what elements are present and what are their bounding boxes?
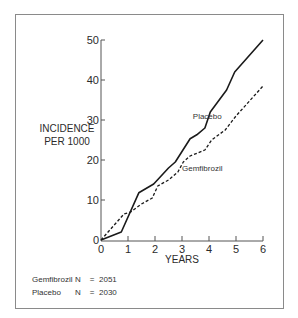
y-tick-label: 40 (87, 74, 99, 86)
x-tick-label: 5 (233, 243, 239, 255)
x-axis-title: YEARS (165, 254, 199, 265)
label-gemfibrozil: Gemfibrozil (182, 164, 223, 173)
x-tick-label: 6 (260, 243, 266, 255)
footnote-placebo: PlaceboN=2030 (32, 288, 117, 297)
y-tick-label: 0 (93, 234, 99, 246)
footnote-equals: = (85, 275, 99, 284)
series-placebo-line (101, 40, 263, 240)
footnote-n-label: N (75, 275, 85, 284)
y-tick-label: 10 (87, 194, 99, 206)
footnote-group: Placebo (32, 288, 75, 297)
label-placebo: Placebo (193, 112, 222, 121)
y-tick-label: 50 (87, 34, 99, 46)
incidence-line-chart: 012345601020304050 PlaceboGemfibrozil IN… (0, 0, 298, 318)
footnote-count: 2051 (99, 275, 117, 284)
y-axis-title-line1: INCIDENCE (39, 123, 94, 134)
y-tick-label: 20 (87, 154, 99, 166)
y-axis-title-line2: PER 1000 (44, 136, 90, 147)
footnote-gemfibrozil: GemfibrozilN=2051 (32, 275, 117, 284)
x-tick-label: 1 (125, 243, 131, 255)
footnote-equals: = (85, 288, 99, 297)
footnote-group: Gemfibrozil (32, 275, 75, 284)
footnote-n-label: N (75, 288, 85, 297)
x-tick-label: 2 (152, 243, 158, 255)
footnote-count: 2030 (99, 288, 117, 297)
series-lines (101, 40, 263, 240)
x-tick-label: 4 (206, 243, 212, 255)
